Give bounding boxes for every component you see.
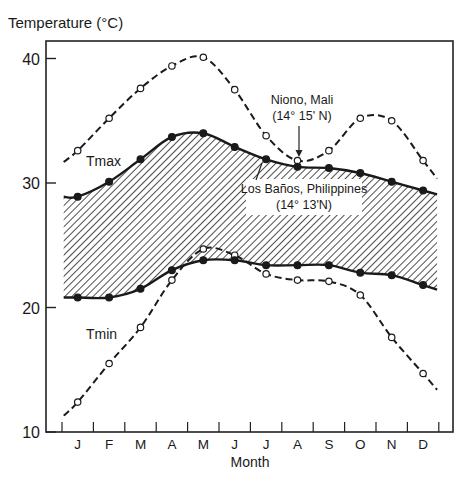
x-tick-label: O: [355, 437, 366, 452]
x-axis-label: Month: [231, 454, 270, 470]
open-circle-marker-icon: [357, 115, 363, 121]
x-axis: JFMAMJJASOND: [62, 422, 439, 452]
x-tick-label: A: [293, 437, 302, 452]
filled-circle-marker-icon: [231, 257, 238, 264]
open-circle-marker-icon: [106, 360, 112, 366]
filled-circle-marker-icon: [137, 285, 144, 292]
open-circle-marker-icon: [326, 147, 332, 153]
niono-annotation-latitude: (14° 15' N): [272, 109, 332, 123]
open-circle-marker-icon: [232, 86, 238, 92]
x-tick-label: J: [74, 437, 81, 452]
x-tick-label: S: [324, 437, 333, 452]
open-circle-marker-icon: [420, 157, 426, 163]
open-circle-marker-icon: [75, 399, 81, 405]
open-circle-marker-icon: [137, 85, 143, 91]
tmax-label: Tmax: [86, 153, 121, 169]
filled-circle-marker-icon: [106, 178, 113, 185]
x-tick-label: N: [387, 437, 397, 452]
filled-circle-marker-icon: [200, 130, 207, 137]
filled-circle-marker-icon: [74, 193, 81, 200]
filled-circle-marker-icon: [420, 187, 427, 194]
y-tick-label: 20: [22, 300, 40, 317]
filled-circle-marker-icon: [169, 267, 176, 274]
x-tick-label: J: [231, 437, 238, 452]
open-circle-marker-icon: [420, 370, 426, 376]
x-tick-label: D: [418, 437, 428, 452]
filled-circle-marker-icon: [388, 272, 395, 279]
open-circle-marker-icon: [294, 277, 300, 283]
x-tick-label: M: [135, 437, 146, 452]
filled-circle-marker-icon: [74, 294, 81, 301]
open-circle-marker-icon: [389, 334, 395, 340]
filled-circle-marker-icon: [231, 143, 238, 150]
open-circle-marker-icon: [200, 54, 206, 60]
temperature-chart: 10203040 JFMAMJJASOND Temperature (°C) M…: [0, 0, 469, 485]
filled-circle-marker-icon: [388, 178, 395, 185]
open-circle-marker-icon: [169, 277, 175, 283]
open-circle-marker-icon: [263, 132, 269, 138]
open-circle-marker-icon: [75, 147, 81, 153]
filled-circle-marker-icon: [357, 170, 364, 177]
tmin-label: Tmin: [86, 326, 117, 342]
filled-circle-marker-icon: [263, 262, 270, 269]
losbanos-annotation-latitude: (14° 13'N): [276, 198, 332, 212]
filled-circle-marker-icon: [200, 257, 207, 264]
losbanos-annotation-name: Los Baños, Philippines: [241, 182, 367, 196]
filled-circle-marker-icon: [137, 156, 144, 163]
filled-circle-marker-icon: [169, 134, 176, 141]
open-circle-marker-icon: [200, 246, 206, 252]
x-tick-label: J: [263, 437, 270, 452]
open-circle-marker-icon: [389, 118, 395, 124]
y-tick-label: 30: [22, 175, 40, 192]
y-tick-label: 10: [22, 424, 40, 441]
x-tick-label: M: [198, 437, 209, 452]
filled-circle-marker-icon: [294, 163, 301, 170]
filled-circle-marker-icon: [106, 294, 113, 301]
filled-circle-marker-icon: [263, 156, 270, 163]
x-tick-label: A: [167, 437, 176, 452]
open-circle-marker-icon: [106, 115, 112, 121]
open-circle-marker-icon: [263, 271, 269, 277]
open-circle-marker-icon: [357, 292, 363, 298]
niono-arrowhead-icon: [296, 150, 303, 157]
filled-circle-marker-icon: [420, 282, 427, 289]
niono-annotation-name: Niono, Mali: [271, 93, 334, 107]
filled-circle-marker-icon: [357, 269, 364, 276]
filled-circle-marker-icon: [326, 165, 333, 172]
filled-circle-marker-icon: [294, 262, 301, 269]
filled-circle-marker-icon: [326, 262, 333, 269]
open-circle-marker-icon: [326, 278, 332, 284]
open-circle-marker-icon: [137, 324, 143, 330]
y-tick-label: 40: [22, 51, 40, 68]
open-circle-marker-icon: [169, 63, 175, 69]
y-axis-label: Temperature (°C): [8, 14, 123, 31]
y-axis: 10203040: [22, 51, 56, 442]
x-tick-label: F: [105, 437, 113, 452]
